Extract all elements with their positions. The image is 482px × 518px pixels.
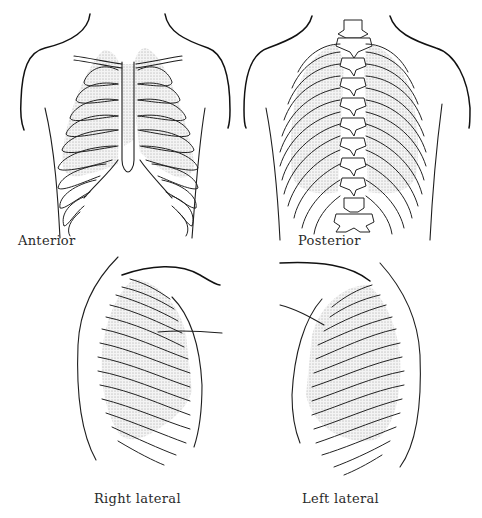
- anterior-thorax-drawing: [0, 0, 240, 255]
- panel-right-lateral: Right lateral: [60, 255, 250, 518]
- right-lung-region-lateral: [102, 279, 192, 439]
- panel-posterior: Posterior: [240, 0, 482, 255]
- right-lung-region-posterior: [291, 44, 344, 193]
- right-lung-region: [62, 50, 120, 176]
- panel-anterior: Anterior: [0, 0, 240, 255]
- panel-label-posterior: Posterior: [298, 233, 361, 248]
- left-lung-region-posterior: [364, 44, 418, 193]
- panel-label-right-lateral: Right lateral: [94, 491, 181, 506]
- panel-left-lateral: Left lateral: [240, 255, 482, 518]
- left-lateral-thorax-drawing: [240, 255, 482, 518]
- right-lateral-thorax-drawing: [60, 255, 250, 518]
- posterior-thorax-drawing: [240, 0, 482, 255]
- panel-label-anterior: Anterior: [18, 233, 76, 248]
- panel-label-left-lateral: Left lateral: [302, 491, 379, 506]
